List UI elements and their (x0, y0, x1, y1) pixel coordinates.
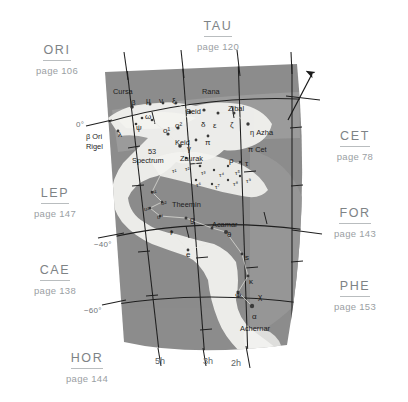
star-label: Spectrum (132, 157, 164, 164)
hour-label-3h: 3h (203, 356, 213, 366)
neighbor-abbr: ORI (43, 43, 70, 61)
neighbor-abbr: CAE (40, 263, 71, 281)
star-label: τ⁹ (246, 178, 251, 184)
star-label: ρ (229, 157, 234, 165)
star-label: γ (187, 145, 191, 153)
star-label: ξ (172, 97, 176, 105)
declination-label-0: 0° (76, 120, 84, 129)
neighbor-abbr: CET (340, 129, 370, 147)
star-label: η Azha (250, 129, 273, 136)
star-label: τ⁶ (196, 182, 201, 188)
star-label: υ¹ (151, 189, 156, 195)
neighbor-hor[interactable]: HOR page 144 (54, 348, 120, 384)
neighbor-cae[interactable]: CAE page 138 (22, 260, 88, 296)
neighbor-page: page 120 (185, 41, 251, 52)
star-label: Beid (186, 108, 201, 115)
neighbor-page: page 143 (322, 228, 388, 239)
star-label: π (205, 139, 211, 147)
star-label: α (252, 313, 257, 321)
neighbor-abbr: FOR (339, 206, 370, 224)
star-label: 53 (148, 148, 156, 155)
neighbor-abbr: LEP (41, 186, 69, 204)
neighbor-tau[interactable]: TAU page 120 (185, 16, 251, 52)
neighbor-page: page 106 (24, 65, 90, 76)
star-label: υ⁴ (157, 214, 163, 220)
star-label: τ² (185, 166, 190, 172)
star-label: Theemin (172, 201, 201, 208)
hour-label-5h: 5h (155, 356, 165, 366)
star-label: Rana (202, 88, 220, 95)
star-label: θ (227, 231, 231, 239)
neighbor-abbr: TAU (204, 19, 233, 37)
star-label: υ² (161, 200, 166, 206)
star-label: β Ori (86, 133, 102, 140)
star-label: τ⁸ (233, 181, 238, 187)
hour-label-2h: 2h (231, 358, 241, 368)
star-label: λ (118, 131, 122, 139)
neighbor-page: page 138 (22, 285, 88, 296)
neighbor-ori[interactable]: ORI page 106 (24, 40, 90, 76)
star-label: Acamar (212, 221, 237, 228)
star-label: e (186, 251, 190, 259)
star-label: π Cet (248, 146, 267, 153)
star-label: τ⁵ (235, 170, 240, 176)
star-label: f (170, 229, 172, 237)
star-label: ω (145, 113, 151, 121)
star-label: Achernar (240, 325, 270, 332)
star-label: μ (146, 97, 151, 105)
star-label: δ (201, 121, 205, 129)
star-label: Zaurak (180, 155, 203, 162)
star-label: κ (249, 278, 253, 286)
star-label: τ¹ (172, 168, 177, 174)
star-label: χ (258, 293, 262, 301)
neighbor-abbr: PHE (340, 279, 371, 297)
star-label: o² (175, 122, 182, 130)
neighbor-page: page 144 (54, 373, 120, 384)
declination-label-minus40: −40° (94, 240, 112, 249)
star-label: τ (245, 160, 248, 168)
star-label: o¹ (163, 127, 170, 135)
star-label: τ³ (201, 170, 206, 176)
star-label: ν (159, 97, 163, 105)
neighbor-page: page 78 (322, 151, 388, 162)
star-label: τ⁷ (215, 184, 220, 190)
star-label: g (190, 216, 194, 224)
neighbor-cet[interactable]: CET page 78 (322, 126, 388, 162)
star-label: Zibal (228, 105, 244, 112)
neighbor-page: page 153 (322, 301, 388, 312)
star-label: Cursa (113, 88, 133, 95)
star-label: β (131, 99, 136, 107)
neighbor-lep[interactable]: LEP page 147 (22, 183, 88, 219)
neighbor-abbr: HOR (71, 351, 104, 369)
star-label: Rigel (86, 143, 103, 150)
neighbor-for[interactable]: FOR page 143 (322, 203, 388, 239)
star-label: υ³ (144, 206, 149, 212)
star-label: s (245, 254, 249, 262)
neighbor-page: page 147 (22, 208, 88, 219)
star-label: ψ (136, 124, 142, 132)
star-label: Φ (235, 292, 241, 300)
star-label: ε (213, 122, 217, 130)
neighbor-phe[interactable]: PHE page 153 (322, 276, 388, 312)
star-label: ζ (230, 121, 234, 129)
star-label: τ⁴ (219, 172, 224, 178)
star-chart-page: ORI page 106 TAU page 120 CET page 78 FO… (0, 0, 408, 402)
declination-label-minus60: −60° (84, 306, 102, 315)
